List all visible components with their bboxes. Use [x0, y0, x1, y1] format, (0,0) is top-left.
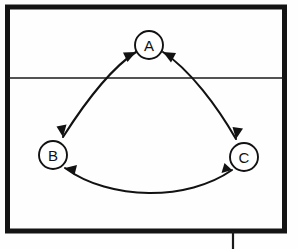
diagram-page: A B C: [0, 0, 298, 249]
node-a[interactable]: A: [135, 31, 163, 59]
edge-a-c: [163, 52, 243, 139]
node-b[interactable]: B: [39, 141, 67, 169]
edge-b-c-arc: [65, 168, 232, 193]
edge-a-b: [57, 52, 137, 137]
cycle-diagram-canvas: A B C: [0, 0, 298, 249]
node-b-label: B: [48, 147, 58, 164]
edge-b-c: [65, 163, 232, 193]
node-c-label: C: [239, 149, 250, 166]
edge-a-c-arc: [163, 52, 236, 139]
edge-a-b-arc: [63, 52, 136, 137]
node-a-label: A: [144, 37, 154, 54]
node-c[interactable]: C: [230, 143, 258, 171]
